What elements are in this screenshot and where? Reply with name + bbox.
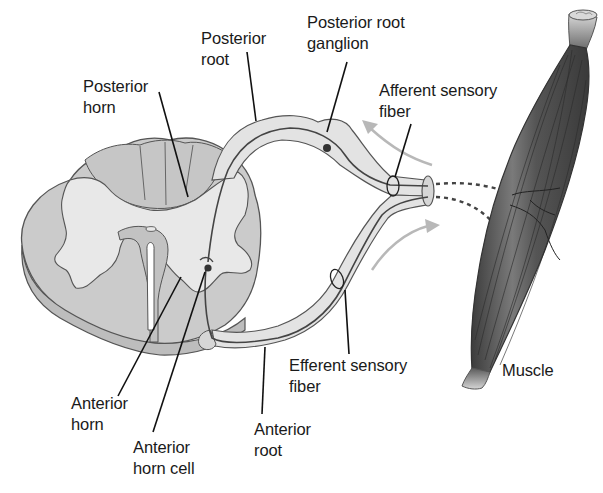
label-posterior-root: Posterior root	[201, 28, 266, 70]
label-efferent-sensory-fiber: Efferent sensory fiber	[289, 355, 407, 397]
leader-efferent-fiber	[345, 290, 349, 354]
label-anterior-horn-cell: Anterior horn cell	[133, 437, 194, 479]
muscle-illustration	[462, 10, 597, 389]
label-posterior-root-ganglion: Posterior root ganglion	[307, 12, 405, 54]
label-posterior-horn: Posterior horn	[83, 76, 148, 118]
efferent-dotted-fiber	[436, 197, 496, 226]
efferent-arrow-icon	[425, 219, 440, 233]
label-afferent-sensory-fiber: Afferent sensory fiber	[379, 80, 497, 122]
label-muscle: Muscle	[502, 360, 554, 381]
label-anterior-horn: Anterior horn	[71, 393, 128, 435]
label-anterior-root: Anterior root	[254, 419, 311, 461]
leader-anterior-root	[262, 347, 265, 414]
